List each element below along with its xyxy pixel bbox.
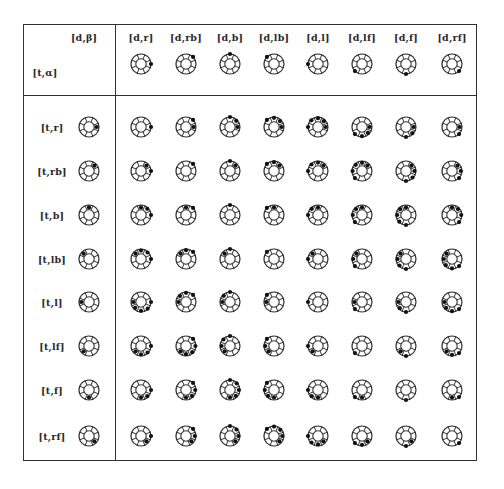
ring-icon-t-b — [79, 205, 99, 225]
position-dot — [322, 119, 326, 123]
position-dot — [191, 381, 195, 385]
position-dot — [87, 205, 91, 209]
position-dot — [145, 207, 149, 211]
position-dot — [179, 252, 183, 256]
position-dot — [189, 439, 193, 443]
position-dot — [353, 69, 357, 73]
position-dot — [321, 439, 325, 443]
position-dot — [404, 72, 408, 76]
position-dot — [412, 125, 416, 129]
ring-icon-t-l-d-l — [306, 292, 328, 312]
ring-icon-d-rf — [442, 54, 462, 74]
position-dot — [459, 169, 463, 173]
position-dot — [228, 378, 232, 382]
position-dot — [265, 206, 269, 210]
position-dot — [442, 300, 446, 304]
position-dot — [306, 169, 310, 173]
position-dot — [264, 300, 268, 304]
position-dot — [457, 176, 461, 180]
ring-icon-t-l-d-r — [131, 292, 153, 313]
position-dot — [404, 179, 408, 183]
position-dot — [144, 439, 148, 443]
ring-icon-t-r-d-rb — [176, 117, 196, 137]
position-dot — [272, 396, 276, 400]
position-dot — [353, 132, 357, 136]
position-dot — [265, 337, 269, 341]
position-dot — [445, 349, 449, 353]
ring-icon-d-r — [131, 54, 153, 74]
ring-icon-t-b-d-rb — [176, 205, 196, 225]
position-dot — [450, 396, 454, 400]
position-dot — [450, 205, 454, 209]
ring-icon-t-lb-d-lf — [351, 249, 372, 269]
position-dot — [263, 344, 267, 348]
position-dot — [306, 344, 310, 348]
ring-icon-t-r-d-lf — [352, 117, 372, 138]
position-dot — [236, 434, 240, 438]
position-dot — [360, 161, 364, 165]
position-dot — [184, 352, 188, 356]
ring-icon-t-b-d-l — [306, 205, 328, 225]
position-dot — [190, 394, 194, 398]
ring-icon-t-b-d-lb — [264, 205, 284, 225]
position-dot — [311, 349, 315, 353]
ring-icon-t-lb-d-f — [396, 249, 417, 271]
position-dot — [399, 252, 403, 256]
position-dot — [398, 207, 402, 211]
position-dot — [193, 344, 197, 348]
ring-icon-t-f — [79, 380, 99, 400]
ring-icon-t-r-d-r — [131, 117, 153, 137]
position-dot — [272, 160, 276, 164]
position-dot — [192, 125, 196, 129]
position-dot — [178, 294, 182, 298]
position-dot — [458, 125, 462, 129]
position-dot — [263, 388, 267, 392]
position-dot — [228, 396, 232, 400]
position-dot — [265, 162, 269, 166]
position-dot — [139, 249, 143, 253]
ring-icon-t-rf — [79, 426, 99, 446]
position-dot — [396, 300, 400, 304]
ring-icon-t-b-d-rf — [442, 205, 463, 225]
position-dot — [354, 207, 358, 211]
position-dot — [280, 125, 284, 129]
position-dot — [409, 164, 413, 168]
position-dot — [191, 427, 195, 431]
position-dot — [92, 164, 96, 168]
ring-icon-t-lb — [79, 249, 99, 269]
position-dot — [149, 344, 153, 348]
position-dot — [149, 434, 153, 438]
position-dot — [456, 207, 460, 211]
ring-icon-t-f-d-r — [131, 380, 153, 400]
position-dot — [360, 396, 364, 400]
position-dot — [306, 300, 310, 304]
position-dot — [184, 291, 188, 295]
position-dot — [191, 206, 195, 210]
position-dot — [351, 257, 355, 261]
ring-icon-t-rf-d-l — [306, 426, 328, 447]
position-dot — [149, 257, 153, 261]
ring-icon-t-lb-d-rf — [442, 249, 462, 271]
position-dot — [191, 118, 195, 122]
ring-icon-t-f-d-f — [396, 380, 416, 402]
position-dot — [353, 176, 357, 180]
ring-icon-t-lb-d-rb — [176, 248, 196, 269]
position-dot — [223, 252, 227, 256]
position-dot — [233, 439, 237, 443]
position-dot — [353, 441, 357, 445]
ring-icon-d-f — [396, 54, 416, 76]
position-dot — [365, 164, 369, 168]
position-dot — [146, 307, 150, 311]
position-dot — [324, 125, 328, 129]
position-dot — [321, 164, 325, 168]
position-dot — [272, 205, 276, 209]
ring-icon-t-lf-d-rb — [176, 336, 197, 356]
position-dot — [184, 396, 188, 400]
position-dot — [265, 381, 269, 385]
position-dot — [228, 52, 232, 56]
position-dot — [79, 300, 83, 304]
position-dot — [237, 388, 241, 392]
position-dot — [404, 267, 408, 271]
position-dot — [404, 135, 408, 139]
position-dot — [397, 263, 401, 267]
